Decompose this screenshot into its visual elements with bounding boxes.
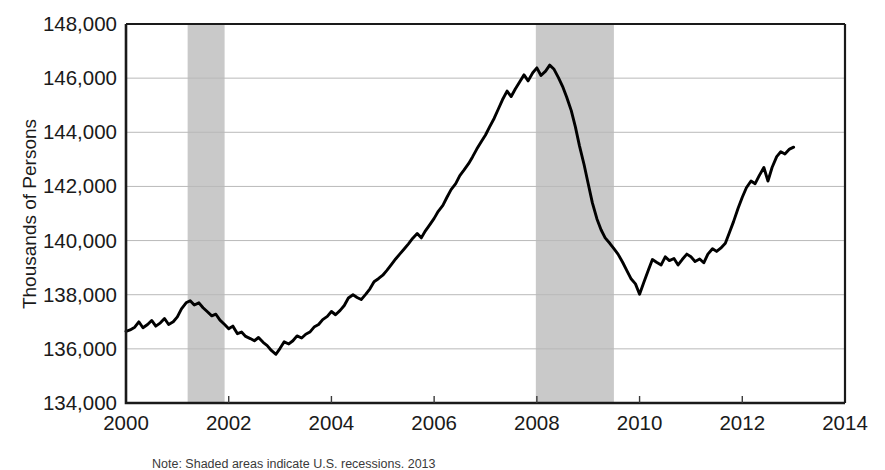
recession-band [536,24,614,403]
x-tick-label: 2004 [309,411,355,434]
x-tick-label: 2014 [822,411,868,434]
x-tick-label: 2010 [617,411,663,434]
x-tick-label: 2006 [411,411,457,434]
x-tick-label: 2012 [719,411,765,434]
x-tick-label: 2002 [206,411,252,434]
x-tick-labels-group: 20002002200420062008201020122014 [103,411,868,434]
y-tick-label: 136,000 [43,337,117,360]
y-tick-label: 142,000 [43,174,117,197]
y-tick-label: 148,000 [43,12,117,35]
y-axis-title: Thousands of Persons [19,119,40,309]
employment-level-line-chart: 134,000136,000138,000140,000142,000144,0… [0,0,885,470]
y-tick-labels-group: 134,000136,000138,000140,000142,000144,0… [43,12,117,414]
y-tick-label: 144,000 [43,120,117,143]
y-tick-label: 140,000 [43,229,117,252]
recession-band [188,24,225,403]
chart-note: Note: Shaded areas indicate U.S. recessi… [152,457,436,470]
x-tick-label: 2008 [514,411,560,434]
y-tick-label: 138,000 [43,283,117,306]
chart-figure: 134,000136,000138,000140,000142,000144,0… [0,0,885,470]
y-tick-label: 146,000 [43,66,117,89]
x-tick-label: 2000 [103,411,149,434]
